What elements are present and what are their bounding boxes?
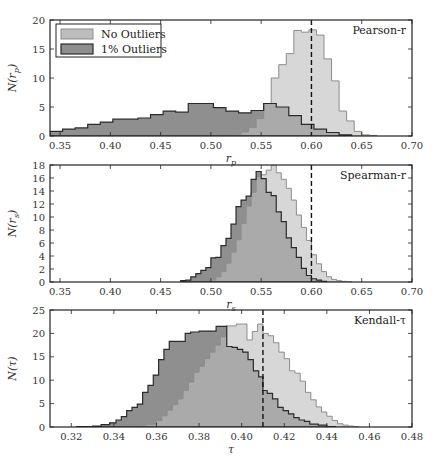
x-tick-label: 0.36 bbox=[145, 431, 167, 442]
x-tick-label: 0.70 bbox=[401, 140, 423, 151]
y-tick-label: 18 bbox=[32, 160, 45, 171]
legend-label-outliers: 1% Outliers bbox=[101, 43, 167, 56]
y-tick-label: 0 bbox=[39, 131, 45, 142]
y-tick-label: 16 bbox=[32, 173, 45, 184]
x-tick-label: 0.50 bbox=[200, 140, 222, 151]
x-tick-label: 0.48 bbox=[401, 431, 423, 442]
y-axis-label: N(rs) bbox=[6, 210, 21, 239]
y-tick-label: 10 bbox=[32, 375, 45, 386]
x-axis-label: τ bbox=[228, 443, 235, 456]
x-tick-label: 0.55 bbox=[250, 140, 272, 151]
x-tick-label: 0.65 bbox=[351, 286, 373, 297]
y-tick-label: 15 bbox=[32, 44, 45, 55]
panel-title: Pearson-r bbox=[352, 24, 406, 37]
x-tick-label: 0.70 bbox=[401, 286, 423, 297]
x-tick-label: 0.50 bbox=[200, 286, 222, 297]
x-tick-label: 0.40 bbox=[231, 431, 253, 442]
x-tick-label: 0.40 bbox=[99, 286, 121, 297]
panel-title: Spearman-r bbox=[340, 169, 407, 182]
no-outliers-histogram bbox=[211, 165, 352, 282]
y-tick-label: 5 bbox=[39, 398, 45, 409]
x-tick-label: 0.35 bbox=[49, 140, 71, 151]
y-tick-label: 6 bbox=[39, 238, 45, 249]
y-axis-label: N(rp) bbox=[6, 64, 21, 94]
x-tick-label: 0.46 bbox=[358, 431, 380, 442]
y-tick-label: 12 bbox=[32, 199, 45, 210]
x-tick-label: 0.40 bbox=[99, 140, 121, 151]
x-tick-label: 0.45 bbox=[149, 140, 171, 151]
y-tick-label: 20 bbox=[32, 328, 45, 339]
y-tick-label: 10 bbox=[32, 212, 45, 223]
legend-label-no-outliers: No Outliers bbox=[101, 28, 166, 41]
x-tick-label: 0.38 bbox=[188, 431, 210, 442]
x-tick-label: 0.60 bbox=[300, 286, 322, 297]
legend-swatch-outliers bbox=[61, 44, 93, 54]
y-tick-label: 25 bbox=[32, 305, 45, 316]
x-tick-label: 0.34 bbox=[103, 431, 125, 442]
x-tick-label: 0.42 bbox=[273, 431, 295, 442]
y-axis-label: N(τ) bbox=[6, 356, 19, 381]
spearman-panel: 0.350.400.450.500.550.600.650.7002468101… bbox=[6, 160, 423, 314]
x-tick-label: 0.60 bbox=[300, 140, 322, 151]
plot-area bbox=[181, 165, 352, 282]
y-tick-label: 2 bbox=[39, 264, 45, 275]
histogram-figure: 0.350.400.450.500.550.600.650.7005101520… bbox=[0, 0, 437, 464]
y-tick-label: 20 bbox=[32, 15, 45, 26]
x-tick-label: 0.44 bbox=[316, 431, 338, 442]
y-tick-label: 14 bbox=[32, 186, 45, 197]
x-tick-label: 0.65 bbox=[351, 140, 373, 151]
plot-area bbox=[77, 324, 359, 427]
legend-swatch-no-outliers bbox=[61, 29, 93, 39]
legend: No Outliers 1% Outliers bbox=[56, 24, 167, 57]
x-tick-label: 0.45 bbox=[149, 286, 171, 297]
panel-title: Kendall-τ bbox=[354, 314, 406, 327]
y-tick-label: 5 bbox=[39, 102, 45, 113]
x-tick-label: 0.32 bbox=[60, 431, 82, 442]
x-tick-label: 0.35 bbox=[49, 286, 71, 297]
y-tick-label: 15 bbox=[32, 351, 45, 362]
y-tick-label: 0 bbox=[39, 422, 45, 433]
y-tick-label: 10 bbox=[32, 73, 45, 84]
x-axis-label: rs bbox=[226, 298, 235, 313]
y-tick-label: 8 bbox=[39, 225, 45, 236]
x-tick-label: 0.55 bbox=[250, 286, 272, 297]
y-tick-label: 4 bbox=[39, 251, 45, 262]
kendall-panel: 0.320.340.360.380.400.420.440.460.480510… bbox=[6, 305, 423, 457]
y-tick-label: 0 bbox=[39, 277, 45, 288]
